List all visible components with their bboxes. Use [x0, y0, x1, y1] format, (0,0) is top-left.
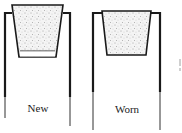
block-worn	[102, 11, 151, 55]
block-new	[12, 5, 63, 57]
label-worn: Worn	[106, 103, 148, 115]
label-new: New	[18, 102, 58, 114]
